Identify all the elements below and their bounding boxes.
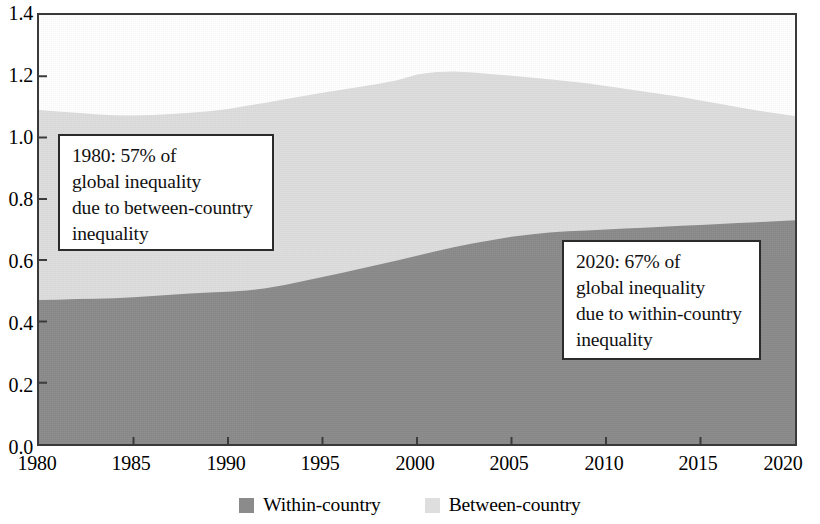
legend-item-between-country: Between-country [425,495,581,515]
y-tick-label: 0.4 [0,313,33,333]
chart-legend: Within-country Between-country [0,495,820,515]
y-tick-label: 1.2 [0,65,33,85]
x-tick-label: 1985 [94,452,168,474]
y-tick-label: 0.6 [0,251,33,271]
legend-swatch-icon [239,498,254,513]
legend-item-within-country: Within-country [239,495,380,515]
y-tick-label: 0.8 [0,189,33,209]
x-tick-label: 1980 [0,452,74,474]
chart-page: 1.4 1.2 1.0 0.8 0.6 0.4 0.2 0.0 1980: 57… [0,0,820,524]
y-tick-label: 0.2 [0,375,33,395]
x-tick-label: 2005 [472,452,546,474]
legend-label: Between-country [449,495,581,515]
y-tick-label: 1.4 [0,3,33,23]
annotation-2020: 2020: 67% of global inequality due to wi… [562,240,761,360]
y-axis-labels: 1.4 1.2 1.0 0.8 0.6 0.4 0.2 0.0 [0,0,33,460]
x-tick-label: 2010 [567,452,641,474]
annotation-1980: 1980: 57% of global inequality due to be… [58,134,274,251]
x-tick-label: 2015 [661,452,735,474]
x-tick-label: 1995 [283,452,357,474]
x-tick-label: 2020 [746,452,820,474]
x-tick-label: 2000 [378,452,452,474]
legend-label: Within-country [263,495,380,515]
x-tick-label: 1990 [189,452,263,474]
y-tick-label: 1.0 [0,127,33,147]
legend-swatch-icon [425,498,440,513]
